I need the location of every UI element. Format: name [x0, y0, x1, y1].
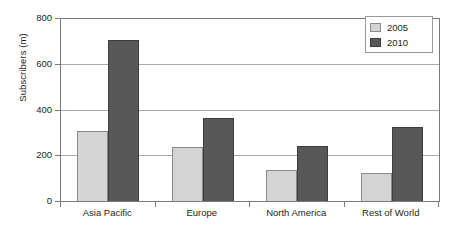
x-axis-category-labels: Asia PacificEuropeNorth AmericaRest of W…: [60, 207, 438, 223]
bar-2005-asia-pacific: [77, 131, 108, 201]
legend-item-2005[interactable]: 2005: [370, 20, 432, 35]
bar-2010-north-america: [297, 146, 328, 201]
x-label-europe: Europe: [155, 207, 250, 219]
bar-2005-north-america: [266, 170, 297, 201]
bar-2005-rest-of-world: [361, 173, 392, 201]
bar-2010-asia-pacific: [108, 40, 139, 201]
y-tick-label-0: 0: [10, 196, 52, 206]
legend-label-2005: 2005: [387, 23, 408, 33]
y-tick-600: [55, 64, 60, 65]
x-label-north-america: North America: [249, 207, 344, 219]
bar-chart: Subscribers (m) 0200400600800 Asia Pacif…: [0, 0, 456, 230]
legend-swatch-2005: [370, 23, 381, 32]
x-label-rest-of-world: Rest of World: [344, 207, 439, 219]
legend-item-2010[interactable]: 2010: [370, 35, 432, 50]
y-tick-400: [55, 110, 60, 111]
y-tick-label-800: 800: [10, 13, 52, 23]
chart-legend: 20052010: [365, 16, 433, 53]
y-tick-800: [55, 18, 60, 19]
x-tick-4: [438, 202, 439, 207]
bar-2010-europe: [203, 118, 234, 201]
y-tick-label-400: 400: [10, 105, 52, 115]
legend-label-2010: 2010: [387, 38, 408, 48]
y-axis-tick-labels: 0200400600800: [0, 0, 52, 230]
bar-2010-rest-of-world: [392, 127, 423, 201]
y-tick-200: [55, 155, 60, 156]
legend-swatch-2010: [370, 38, 381, 47]
y-tick-label-200: 200: [10, 150, 52, 160]
x-label-asia-pacific: Asia Pacific: [60, 207, 155, 219]
bar-2005-europe: [172, 147, 203, 201]
y-tick-label-600: 600: [10, 59, 52, 69]
